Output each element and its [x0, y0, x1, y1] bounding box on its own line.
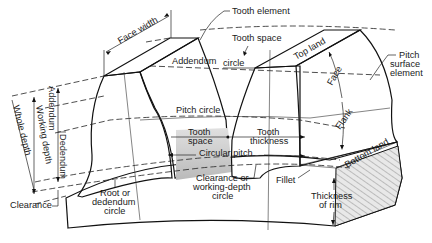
- addendum-circle-label-a: Addendum: [172, 56, 217, 66]
- circular-pitch-label: Circular pitch: [199, 148, 253, 158]
- clearance-circle-leader: [248, 165, 256, 178]
- tooth-element-leader: [200, 11, 230, 40]
- gear-tooth-diagram: Face width Tooth element Tooth space Add…: [0, 0, 432, 243]
- dedendum-label: Dedendum: [58, 134, 68, 179]
- clearance-circle-label-3: circle: [212, 191, 233, 201]
- fillet-label: Fillet: [276, 175, 296, 185]
- face-width-label: Face width: [116, 15, 159, 46]
- tooth-element-label: Tooth element: [232, 6, 290, 16]
- pitch-circle-label: Pitch circle: [176, 105, 220, 115]
- tooth-thickness-label-2: thickness: [250, 136, 289, 146]
- rim-cross-section-hatch: [335, 146, 402, 226]
- clearance-label: Clearance: [10, 200, 52, 210]
- face-label: Face: [325, 64, 344, 87]
- tooth-space-label-2: space: [188, 136, 213, 146]
- tooth-space-top-label: Tooth space: [232, 33, 282, 43]
- pitch-surface-element-label-3: element: [390, 68, 423, 78]
- fillet-leader: [298, 170, 310, 178]
- flank-label: Flank: [333, 107, 354, 131]
- addendum-label: Addendum: [47, 86, 57, 131]
- thickness-of-rim-label-2: of rim: [319, 200, 342, 210]
- root-circle-label-3: circle: [104, 206, 125, 216]
- whole-depth-label: Whole depth: [11, 104, 33, 156]
- addendum-circle-label-b: circle: [223, 58, 244, 68]
